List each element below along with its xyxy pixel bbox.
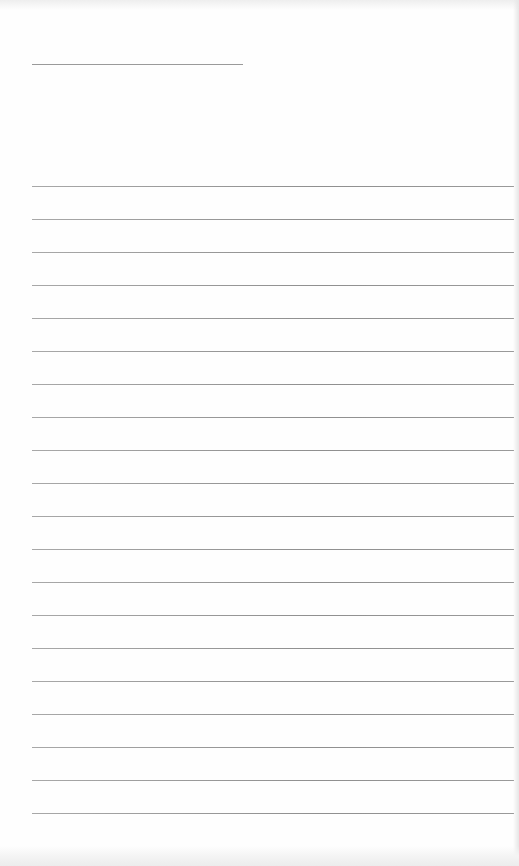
scan-shadow-top [0, 0, 519, 10]
ruled-line [32, 582, 514, 583]
ruled-line [32, 351, 514, 352]
ruled-line [32, 714, 514, 715]
ruled-line [32, 285, 514, 286]
ruled-line [32, 747, 514, 748]
scan-shadow-right [513, 0, 519, 866]
ruled-line [32, 648, 514, 649]
ruled-line [32, 450, 514, 451]
ruled-line [32, 615, 514, 616]
scan-shadow-bottom [0, 846, 519, 866]
lined-paper-page [0, 0, 519, 866]
ruled-line [32, 318, 514, 319]
ruled-line [32, 516, 514, 517]
ruled-line [32, 186, 514, 187]
ruled-line [32, 813, 514, 814]
ruled-line [32, 780, 514, 781]
header-write-line [32, 64, 243, 65]
ruled-line [32, 219, 514, 220]
ruled-line [32, 417, 514, 418]
ruled-line [32, 252, 514, 253]
ruled-line [32, 681, 514, 682]
ruled-line [32, 384, 514, 385]
ruled-line [32, 483, 514, 484]
ruled-line [32, 549, 514, 550]
